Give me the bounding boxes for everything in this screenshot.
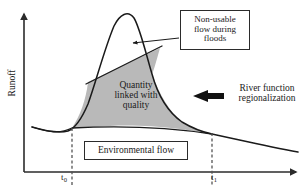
- x-tick-t1-subscript: 1: [214, 176, 217, 183]
- label-quantity-line1: Quantity: [98, 80, 174, 90]
- callout-non-usable-flow: Non-usable flow during floods: [180, 10, 250, 50]
- label-river-function-regionalization: River function regionalization: [227, 83, 307, 103]
- callout-environmental-flow-text: Environmental flow: [87, 145, 185, 155]
- y-axis-title: Runoff: [7, 58, 17, 108]
- runoff-hydrograph-figure: Runoff Non-usable flow during floods Qua…: [0, 0, 308, 194]
- label-river-function-line1: River function: [227, 83, 307, 93]
- x-tick-label-t1: t1: [204, 173, 224, 183]
- bold-arrow-river-function: [193, 90, 224, 102]
- x-tick-label-t0: t0: [54, 173, 74, 183]
- label-river-function-line2: regionalization: [227, 93, 307, 103]
- label-quantity-linked-with-quality: Quantity linked with quality: [98, 80, 174, 110]
- callout-environmental-flow: Environmental flow: [84, 141, 188, 160]
- label-quantity-line3: quality: [98, 100, 174, 110]
- x-tick-t0-subscript: 0: [64, 176, 67, 183]
- label-quantity-line2: linked with: [98, 90, 174, 100]
- callout-non-usable-line3: floods: [184, 34, 246, 44]
- leader-line-non-usable: [133, 38, 179, 43]
